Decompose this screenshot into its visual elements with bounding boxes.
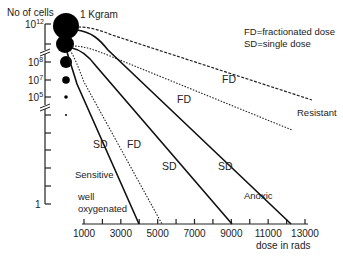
legend-sd: SD=single dose	[244, 38, 311, 49]
svg-text:1012: 1012	[25, 18, 44, 30]
svg-text:107: 107	[28, 74, 43, 86]
annotation-oxygenated: oxygenated	[78, 203, 127, 214]
series-label-fd: FD	[177, 93, 191, 105]
y-tick-label: 1012	[25, 18, 44, 30]
series-sd-mid	[72, 48, 232, 224]
tumor-circle	[56, 35, 74, 53]
x-axis-label: dose in rads	[256, 240, 310, 251]
svg-text:108: 108	[28, 56, 43, 68]
svg-text:105: 105	[28, 91, 43, 103]
y-tick-label: 1	[35, 199, 41, 210]
series-label-fd: FD	[222, 73, 236, 85]
y-tick-label: 107	[28, 74, 43, 86]
x-axis	[82, 219, 308, 224]
x-tick-label: 11000	[255, 228, 283, 239]
series-label-sd: SD	[218, 160, 233, 172]
x-tick-label: 13000	[291, 228, 319, 239]
series-fd-mid	[72, 46, 292, 130]
x-tick-label: 3000	[110, 228, 133, 239]
annotation-resistant: Resistant	[297, 107, 337, 118]
x-tick-label: 9000	[220, 228, 243, 239]
annotation-well: well	[77, 191, 94, 202]
y-axis-label: No of cells	[7, 7, 54, 18]
x-tick-label: 7000	[183, 228, 206, 239]
series-label-sd: SD	[93, 138, 108, 150]
tumor-circle	[62, 76, 70, 84]
y-axis	[40, 24, 51, 204]
tumor-mass-label: 1 Kgram	[80, 9, 118, 20]
y-tick-label: 108	[28, 56, 43, 68]
annotation-anoxic: Anoxic	[244, 190, 273, 201]
x-tick-label: 1000	[73, 228, 96, 239]
legend-fd: FD=fractionated dose	[244, 26, 335, 37]
tumor-circle	[64, 95, 68, 99]
x-tick-label: 5000	[147, 228, 170, 239]
y-tick-label: 105	[28, 91, 43, 103]
series-label-fd: FD	[127, 138, 141, 150]
series-label-sd: SD	[162, 160, 177, 172]
tumor-size-markers	[53, 13, 79, 116]
chart: No of cells 1012 108 107 105 1 1 Kgram 1…	[0, 0, 343, 260]
annotation-sensitive: Sensitive	[75, 169, 114, 180]
tumor-circle	[65, 114, 67, 116]
